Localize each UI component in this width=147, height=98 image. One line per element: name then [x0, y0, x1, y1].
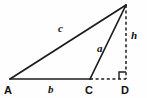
vertex-label-a: A	[4, 85, 12, 96]
vertex-label-c: C	[85, 85, 93, 96]
right-angle-marker-at-d	[119, 72, 126, 79]
segment-label-b: b	[48, 84, 54, 95]
geometry-figure: A b C D c a h	[0, 0, 147, 98]
segment-label-c: c	[58, 23, 63, 34]
segment-label-a: a	[97, 43, 103, 54]
segment-label-h: h	[131, 30, 137, 41]
vertex-label-d: D	[121, 85, 129, 96]
